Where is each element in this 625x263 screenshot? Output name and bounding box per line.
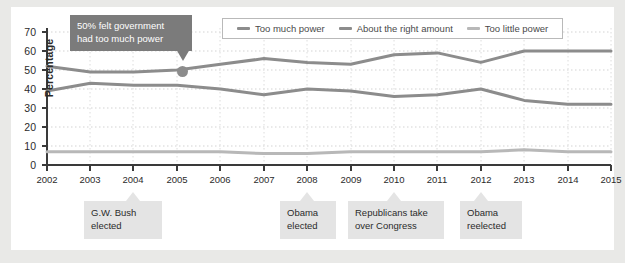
callout-bush-elected: G.W. Bush elected [84, 201, 162, 239]
legend-label: About the right amount [357, 23, 453, 34]
legend-label: Too little power [485, 23, 548, 34]
y-tick-label-10: 10 [10, 141, 36, 152]
legend-swatch-icon [339, 27, 352, 30]
series-line-too-little-power [47, 150, 611, 154]
x-tick-label-2015: 2015 [590, 175, 625, 185]
tooltip-pointer-icon [176, 49, 190, 61]
x-tick-label-2012: 2012 [460, 175, 502, 185]
callout-obama-elected: Obama elected [280, 201, 336, 239]
callout-obama-reelected: Obama reelected [460, 201, 522, 239]
y-tick-label-60: 60 [10, 46, 36, 57]
callout-line-1: Obama [467, 206, 515, 219]
legend-item-too-little-power[interactable]: Too little power [467, 23, 548, 34]
legend-label: Too much power [255, 23, 325, 34]
series-line-about-the-right-amount [47, 83, 611, 104]
x-tick-label-2009: 2009 [330, 175, 372, 185]
x-tick-label-2005: 2005 [156, 175, 198, 185]
legend-swatch-icon [467, 27, 480, 30]
y-tick-label-20: 20 [10, 122, 36, 133]
y-tick-label-70: 70 [10, 27, 36, 38]
y-tick-label-30: 30 [10, 103, 36, 114]
y-axis-title: Percentage [43, 13, 55, 123]
callout-pointer-icon-republicans [387, 192, 401, 201]
callout-line-2: reelected [467, 219, 515, 232]
legend-item-about-the-right-amount[interactable]: About the right amount [339, 23, 453, 34]
callout-line-2: elected [91, 219, 155, 232]
callout-pointer-icon-bush [126, 192, 140, 201]
highlighted-data-point [177, 66, 188, 77]
x-tick-label-2004: 2004 [112, 175, 154, 185]
x-tick-label-2006: 2006 [199, 175, 241, 185]
x-tick-label-2003: 2003 [69, 175, 111, 185]
chart-legend: Too much power About the right amount To… [222, 18, 563, 39]
x-tick-label-2010: 2010 [373, 175, 415, 185]
y-tick-label-0: 0 [10, 160, 36, 171]
legend-item-too-much-power[interactable]: Too much power [237, 23, 325, 34]
x-tick-label-2002: 2002 [26, 175, 68, 185]
tooltip-line-2: had too much power [77, 33, 185, 46]
callout-line-2: elected [287, 219, 329, 232]
callout-pointer-icon-obama-reelected [474, 192, 488, 201]
legend-swatch-icon [237, 27, 250, 30]
callout-pointer-icon-obama-elected [300, 192, 314, 201]
x-tick-label-2013: 2013 [503, 175, 545, 185]
x-tick-label-2007: 2007 [243, 175, 285, 185]
x-tick-label-2014: 2014 [547, 175, 589, 185]
callout-republicans-take-over-congress: Republicans take over Congress [348, 201, 444, 239]
x-tick-label-2011: 2011 [416, 175, 458, 185]
callout-line-2: over Congress [355, 219, 437, 232]
annotation-tooltip: 50% felt government had too much power [70, 15, 192, 51]
callout-line-1: Obama [287, 206, 329, 219]
callout-line-1: G.W. Bush [91, 206, 155, 219]
series-line-too-much-power [47, 51, 611, 72]
chart-figure: Percentage 70 60 50 40 30 20 10 0 2002 2… [0, 0, 625, 263]
x-tick-label-2008: 2008 [286, 175, 328, 185]
tooltip-line-1: 50% felt government [77, 20, 185, 33]
y-tick-label-50: 50 [10, 65, 36, 76]
callout-line-1: Republicans take [355, 206, 437, 219]
y-tick-label-40: 40 [10, 84, 36, 95]
